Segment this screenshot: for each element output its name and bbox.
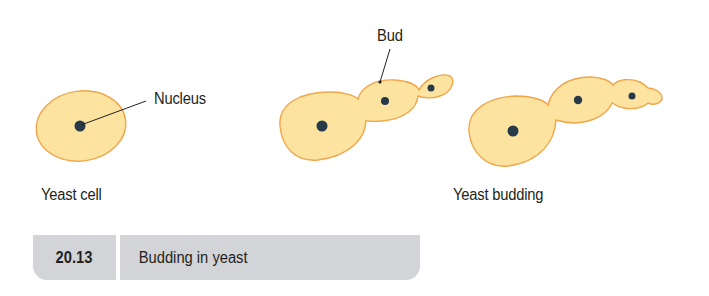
second-bud-nucleus-dot <box>629 93 636 100</box>
nucleus-dot <box>75 121 86 132</box>
yeast-budding-stage-1 <box>280 49 453 160</box>
yeast-cell-single <box>32 85 146 167</box>
yeast-budding-diagram <box>0 0 709 230</box>
bud-leader-line <box>380 49 390 82</box>
mother-nucleus-dot <box>317 121 328 132</box>
figure-caption: 20.13 Budding in yeast <box>33 235 420 280</box>
bud-label: Bud <box>377 27 403 45</box>
figure-title: Budding in yeast <box>120 235 420 280</box>
bud-nucleus-dot <box>381 97 389 105</box>
yeast-budding-stage-2 <box>469 77 662 166</box>
second-bud-nucleus-dot <box>428 85 435 92</box>
nucleus-label: Nucleus <box>154 90 206 108</box>
yeast-cell-label: Yeast cell <box>41 186 102 204</box>
mother-and-buds-chain-outline <box>469 77 662 166</box>
yeast-budding-label: Yeast budding <box>453 186 543 204</box>
mother-nucleus-dot <box>508 126 519 137</box>
mother-and-bud-outline <box>280 75 453 160</box>
bud-leader-dot <box>378 80 381 83</box>
figure-number: 20.13 <box>33 235 116 280</box>
bud-nucleus-dot <box>574 96 582 104</box>
